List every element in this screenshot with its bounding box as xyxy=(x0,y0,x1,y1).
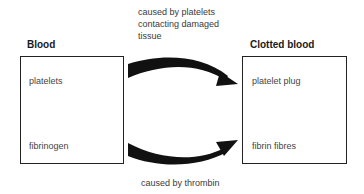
bottom-arrow-icon xyxy=(128,143,227,165)
arrows xyxy=(0,0,364,194)
top-arrow-icon xyxy=(128,58,228,80)
